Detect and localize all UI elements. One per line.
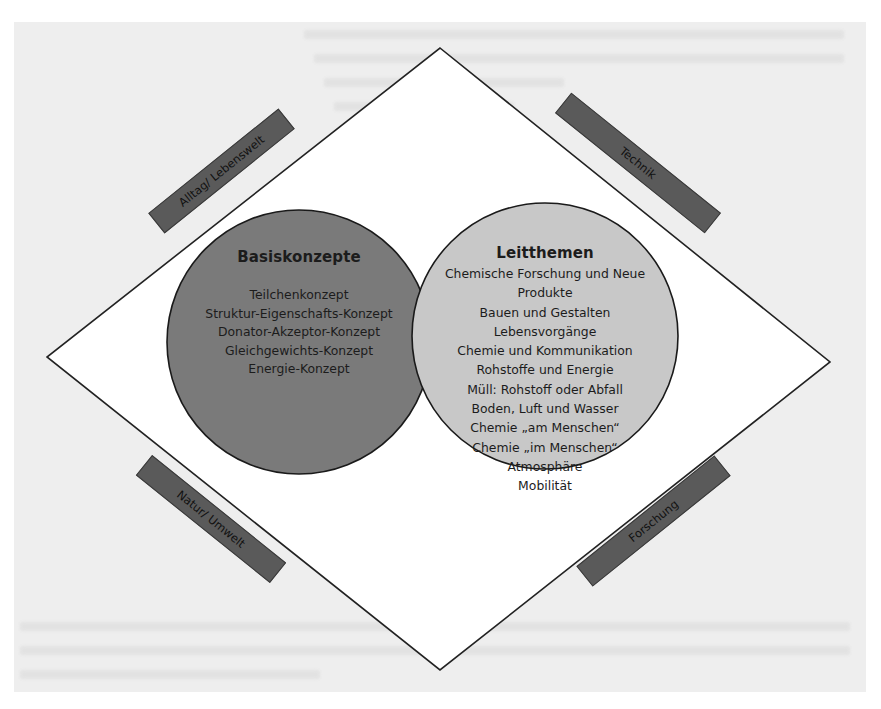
leitthema-item: Chemie „am Menschen“ [413,418,677,437]
leitthema-item: Chemie und Kommunikation [413,341,677,360]
leitthema-item: Produkte [413,283,677,302]
leitthema-item: Chemie „im Menschen“ [413,438,677,457]
basiskonzepte-title: Basiskonzepte [169,248,429,266]
basiskonzept-item: Gleichgewichts-Konzept [169,342,429,361]
leitthema-item: Atmosphäre [413,457,677,476]
leitthemen-list: Leitthemen Chemische Forschung und Neue … [413,244,677,496]
basiskonzept-item: Energie-Konzept [169,360,429,379]
leitthemen-title: Leitthemen [413,244,677,262]
leitthema-item: Müll: Rohstoff oder Abfall [413,380,677,399]
basiskonzept-item: Donator-Akzeptor-Konzept [169,323,429,342]
leitthema-item: Boden, Luft und Wasser [413,399,677,418]
basiskonzept-item: Struktur-Eigenschafts-Konzept [169,305,429,324]
leitthema-item: Bauen und Gestalten [413,303,677,322]
leitthema-item: Lebensvorgänge [413,322,677,341]
basiskonzept-item: Teilchenkonzept [169,286,429,305]
leitthema-item: Chemische Forschung und Neue [413,264,677,283]
basiskonzepte-list: Basiskonzepte Teilchenkonzept Struktur-E… [169,248,429,379]
leitthema-item: Mobilität [413,476,677,495]
leitthema-item: Rohstoffe und Energie [413,360,677,379]
